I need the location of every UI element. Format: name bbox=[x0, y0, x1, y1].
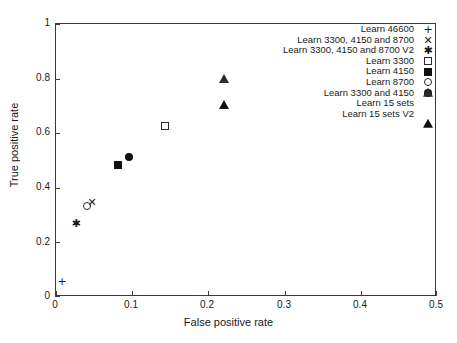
y-tick-0.8 bbox=[55, 79, 60, 80]
roc-scatter-figure: True positive rate 1 0.8 0.6 0.4 0.2 0 0… bbox=[0, 0, 457, 343]
y-tick-label-0.8: 0.8 bbox=[10, 72, 50, 83]
triangle-filled-icon bbox=[423, 109, 433, 120]
legend-item-learn-8700: Learn 8700 bbox=[250, 77, 436, 88]
legend-key-triangle-filled bbox=[420, 109, 436, 120]
y-tick-0.2 bbox=[55, 242, 60, 243]
x-tick-label-0.4: 0.4 bbox=[340, 299, 380, 310]
legend-key-circle-open bbox=[420, 77, 436, 88]
square-filled-icon bbox=[424, 68, 432, 76]
legend-item-learn-15-sets-v2: Learn 15 sets V2 bbox=[250, 109, 436, 120]
y-tick-0.4 bbox=[55, 188, 60, 189]
legend: Learn 46600 + Learn 3300, 4150 and 8700 … bbox=[250, 24, 436, 119]
cross-marker-icon: ✕ bbox=[87, 197, 96, 208]
y-tick-0 bbox=[55, 296, 60, 297]
square-open-marker-icon bbox=[161, 122, 169, 130]
plus-marker-icon: + bbox=[57, 276, 66, 287]
y-tick-1 bbox=[55, 24, 60, 25]
x-tick-0.5 bbox=[436, 291, 437, 296]
y-tick-label-0.2: 0.2 bbox=[10, 236, 50, 247]
y-tick-label-0.6: 0.6 bbox=[10, 126, 50, 137]
y-tick-label-1: 1 bbox=[10, 17, 50, 28]
legend-key-star: ✱ bbox=[420, 45, 436, 56]
x-tick-label-0: 0 bbox=[35, 299, 75, 310]
circle-filled-marker-icon bbox=[125, 153, 133, 161]
x-tick-label-0.2: 0.2 bbox=[187, 299, 227, 310]
legend-label: Learn 15 sets V2 bbox=[342, 109, 420, 120]
x-tick-0.2 bbox=[208, 291, 209, 296]
x-axis-label: False positive rate bbox=[0, 316, 457, 328]
y-tick-label-0.4: 0.4 bbox=[10, 181, 50, 192]
x-tick-0.3 bbox=[285, 291, 286, 296]
y-tick-0.6 bbox=[55, 133, 60, 134]
circle-open-icon bbox=[424, 78, 432, 86]
star-icon: ✱ bbox=[423, 45, 432, 56]
legend-label: Learn 8700 bbox=[366, 77, 420, 88]
x-tick-0.1 bbox=[132, 291, 133, 296]
triangle-filled-marker-icon bbox=[219, 83, 229, 101]
legend-key-square-open bbox=[420, 56, 436, 67]
legend-label: Learn 46600 bbox=[361, 24, 420, 35]
legend-key-square-filled bbox=[420, 66, 436, 77]
legend-item-learn-46600: Learn 46600 + bbox=[250, 24, 436, 35]
x-tick-label-0.5: 0.5 bbox=[416, 299, 456, 310]
x-tick-0.4 bbox=[361, 291, 362, 296]
x-tick-label-0.1: 0.1 bbox=[111, 299, 151, 310]
square-open-icon bbox=[424, 57, 432, 65]
star-marker-icon: ✱ bbox=[71, 218, 80, 229]
x-tick-label-0.3: 0.3 bbox=[264, 299, 304, 310]
y-axis-label: True positive rate bbox=[8, 75, 20, 215]
square-filled-marker-icon bbox=[114, 161, 122, 169]
